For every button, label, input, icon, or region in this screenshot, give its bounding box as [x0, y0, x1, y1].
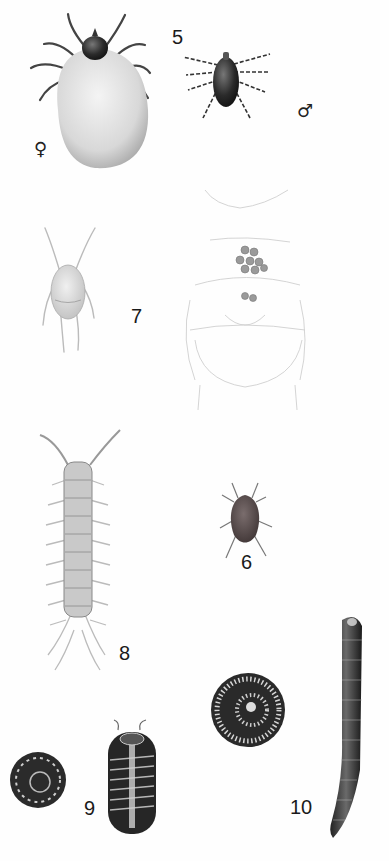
pill-millipede-extended	[108, 720, 156, 834]
tick-female	[31, 14, 150, 168]
centipede	[40, 430, 120, 670]
female-symbol: ♀	[34, 140, 47, 158]
figure-label-6: 6	[241, 552, 252, 572]
figure-label-9: 9	[84, 798, 95, 818]
millipede-extended	[330, 617, 362, 838]
male-symbol: ♂	[297, 102, 313, 120]
figure-label-10: 10	[290, 797, 312, 817]
figure-label-5: 5	[172, 27, 183, 47]
mite-dark	[220, 483, 272, 558]
tick-male	[183, 52, 270, 118]
figure-label-8: 8	[119, 643, 130, 663]
illustration-plate: 5 ♀ ♂ 7 6 8 9 10	[0, 0, 389, 861]
ventral-line-drawing	[186, 190, 305, 410]
mite-pale	[43, 228, 95, 352]
figure-label-7: 7	[131, 306, 142, 326]
pill-millipede-curled	[10, 752, 66, 808]
millipede-coiled	[211, 673, 285, 747]
plate-artwork	[0, 0, 389, 861]
